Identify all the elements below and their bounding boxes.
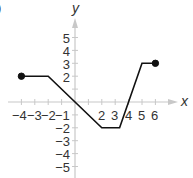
y-axis-arrow-icon bbox=[72, 18, 78, 28]
y-tick-label: 2 bbox=[63, 70, 70, 85]
panel-label-fragment: ) bbox=[0, 0, 1, 15]
y-axis-label: y bbox=[71, 0, 80, 16]
axes bbox=[8, 18, 178, 178]
y-tick-label: −5 bbox=[55, 160, 70, 175]
x-axis-label: x bbox=[180, 93, 189, 109]
x-tick-label: 6 bbox=[151, 108, 158, 123]
x-tick-label: 3 bbox=[111, 108, 118, 123]
function-graph: ) −4 −3 −2 −1 2 3 4 5 6 5 4 3 2 −1 −2 −3… bbox=[0, 0, 193, 178]
x-tick-label: −3 bbox=[27, 108, 42, 123]
x-tick-labels: −4 −3 −2 −1 2 3 4 5 6 bbox=[12, 108, 158, 123]
endpoint-dot bbox=[18, 73, 24, 79]
endpoint-dot bbox=[152, 60, 158, 66]
x-tick-label: 2 bbox=[98, 108, 105, 123]
x-tick-label: −2 bbox=[41, 108, 56, 123]
x-tick-label: 5 bbox=[138, 108, 145, 123]
x-axis-arrow-icon bbox=[168, 99, 178, 105]
x-tick-label: −4 bbox=[12, 108, 27, 123]
y-tick-labels: 5 4 3 2 −1 −2 −3 −4 −5 bbox=[55, 31, 70, 175]
